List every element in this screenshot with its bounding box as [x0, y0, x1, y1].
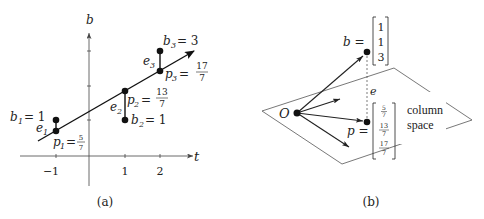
- svg-text:13: 13: [156, 87, 168, 97]
- b-vector-label: b = 1 1 3: [343, 17, 388, 65]
- svg-text:17: 17: [196, 61, 208, 71]
- svg-text:7: 7: [382, 130, 386, 138]
- svg-text:7: 7: [79, 144, 83, 152]
- svg-text:= 3: = 3: [177, 34, 199, 48]
- label-b2: b 2 = 1: [131, 113, 167, 129]
- point-b2: [122, 117, 129, 124]
- label-e1: e 1: [36, 121, 48, 137]
- tick-label-neg1: −1: [43, 165, 59, 178]
- panel-a: t b −1 1 2 b 1 = 1 e 1 p 1: [10, 13, 208, 209]
- label-e3: e 3: [143, 54, 155, 70]
- svg-text:=: =: [66, 135, 76, 149]
- svg-text:3: 3: [378, 51, 385, 64]
- svg-text:p =: p =: [347, 124, 369, 138]
- svg-text:2: 2: [133, 100, 139, 109]
- svg-text:7: 7: [382, 111, 386, 118]
- svg-text:=: =: [179, 67, 189, 81]
- svg-text:13: 13: [380, 122, 388, 130]
- plane-label-line2: space: [407, 118, 434, 132]
- point-p3: [157, 68, 164, 75]
- svg-text:3: 3: [150, 61, 155, 70]
- svg-text:= 1: = 1: [145, 113, 167, 127]
- vector-b: [297, 56, 363, 113]
- label-p1: p 1 = 5 7: [53, 134, 85, 152]
- label-b3: b 3 = 3: [163, 34, 199, 50]
- label-p2: p 2 = 13 7: [127, 87, 168, 109]
- column-vector-1: [297, 99, 340, 113]
- svg-text:b: b: [131, 113, 139, 127]
- svg-text:1: 1: [60, 142, 65, 151]
- point-b: [364, 49, 371, 56]
- svg-text:2: 2: [138, 120, 144, 129]
- svg-text:7: 7: [382, 149, 386, 157]
- svg-text:7: 7: [159, 99, 165, 109]
- svg-text:1: 1: [18, 117, 23, 126]
- svg-text:1: 1: [378, 21, 385, 34]
- svg-text:5: 5: [79, 134, 83, 142]
- svg-text:1: 1: [378, 36, 385, 49]
- svg-text:b =: b =: [343, 35, 365, 49]
- least-squares-figure: t b −1 1 2 b 1 = 1 e 1 p 1: [0, 0, 484, 219]
- panel-b: e O b = 1 1 3 p = 5 7 13 7: [262, 17, 472, 209]
- t-axis-label: t: [194, 149, 200, 164]
- svg-text:b: b: [10, 110, 18, 124]
- best-fit-line: [38, 51, 194, 141]
- svg-text:17: 17: [380, 140, 388, 148]
- svg-text:7: 7: [199, 73, 205, 83]
- svg-text:3: 3: [171, 41, 176, 50]
- tick-label-2: 2: [157, 165, 164, 178]
- b-axis-label: b: [86, 13, 94, 27]
- error-label: e: [370, 85, 377, 98]
- svg-text:1: 1: [43, 128, 48, 137]
- svg-text:2: 2: [116, 107, 122, 116]
- caption-a: (a): [97, 195, 114, 209]
- point-p1: [53, 128, 60, 135]
- point-b1: [53, 117, 60, 124]
- caption-b: (b): [362, 195, 379, 209]
- svg-text:3: 3: [172, 74, 177, 83]
- svg-text:=: =: [141, 93, 151, 107]
- plane-label-line1: column: [407, 103, 443, 117]
- origin-point: [294, 110, 301, 117]
- tick-label-1: 1: [122, 165, 129, 178]
- p-vector-label: p = 5 7 13 7 17 7: [347, 103, 395, 159]
- origin-label: O: [279, 106, 290, 121]
- svg-text:b: b: [163, 34, 171, 48]
- svg-text:5: 5: [382, 104, 386, 111]
- point-b3: [157, 48, 164, 55]
- label-e2: e 2: [110, 100, 122, 116]
